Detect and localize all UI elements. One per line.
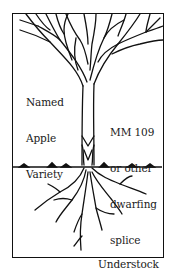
label-named-apple-variety: Named Apple Variety [26,72,64,192]
label-line: Apple [26,132,64,144]
label-line: or other [110,162,157,174]
label-line: dwarfing [110,198,157,210]
label-line: Variety [26,168,64,180]
label-line: Understock [98,258,159,270]
label-line: Named [26,96,64,108]
label-understock: Understock [98,234,159,272]
label-line: MM 109 [110,126,157,138]
